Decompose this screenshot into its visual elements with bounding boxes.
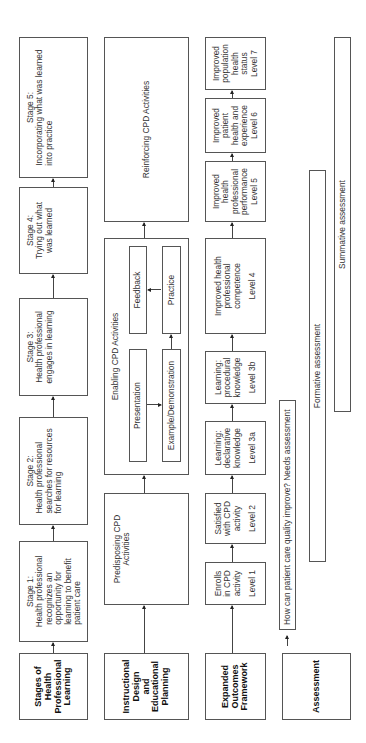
arrow: [53, 275, 54, 298]
arrow: [232, 335, 233, 351]
arrow: [144, 476, 145, 493]
cpd-framework-diagram: Stages of Health Professional Learning S…: [0, 0, 366, 743]
arrow: [232, 223, 233, 238]
stage-2-box: Stage 2: Health professional searches fo…: [19, 417, 88, 525]
arrow: [232, 154, 233, 161]
level-5-box: Improved health professional performance…: [205, 161, 266, 222]
level-2-box: Satisfied with CPD activity Level 2: [205, 493, 266, 544]
stages-header: Stages of Health Professional Learning: [19, 653, 88, 720]
reinforcing-box: Reinforcing CPD Activities: [104, 37, 189, 222]
arrow: [232, 476, 233, 493]
predisposing-box: Predisposing CPD Activities: [104, 493, 189, 605]
formative-assessment-bar: Formative assessment: [309, 170, 326, 562]
level-1-box: Enrolls in CPD activity Level 1: [205, 562, 266, 605]
arrow: [148, 289, 161, 290]
arrow: [53, 179, 54, 187]
stage-1-box: Stage 1: Health professional recognizes …: [19, 541, 88, 642]
stage-3-box: Stage 3: Health professional engages in …: [19, 298, 88, 396]
arrow: [53, 397, 54, 417]
arrow: [232, 405, 233, 421]
arrow: [144, 223, 145, 238]
level-6-box: Improved patient health and experience L…: [205, 98, 266, 153]
arrow: [147, 404, 161, 405]
summative-assessment-bar: Summative assessment: [334, 37, 351, 412]
stage-4-box: Stage 4: Trying out what was learned: [19, 187, 88, 274]
outcomes-header: Expanded Outcomes Framework: [205, 653, 266, 720]
presentation-box: Presentation: [129, 349, 147, 462]
arrow: [232, 606, 233, 653]
arrow: [232, 545, 233, 562]
feedback-box: Feedback: [129, 246, 147, 334]
level-4-box: Improved health professional competence …: [205, 238, 266, 334]
stage-5-box: Stage 5: Incorporating what was learned …: [19, 37, 88, 178]
arrow: [144, 606, 145, 653]
instructional-header: Instructional Design and Educational Pla…: [104, 653, 189, 720]
example-demonstration-box: Example/Demonstration: [162, 349, 181, 462]
arrow: [53, 643, 54, 653]
assessment-header: Assessment: [282, 653, 351, 720]
arrow: [287, 636, 288, 646]
arrow: [171, 335, 172, 349]
needs-assessment-bar: How can patient care quality improve? Ne…: [279, 400, 296, 630]
level-3a-box: Learning: declarative knowledge Level 3a: [205, 421, 266, 475]
arrow: [232, 91, 233, 98]
practice-box: Practice: [162, 246, 181, 334]
level-3b-box: Learning: procedural knowledge Level 3b: [205, 351, 266, 404]
level-7-box: Improved population health status Level …: [205, 37, 266, 90]
arrow: [53, 526, 54, 541]
